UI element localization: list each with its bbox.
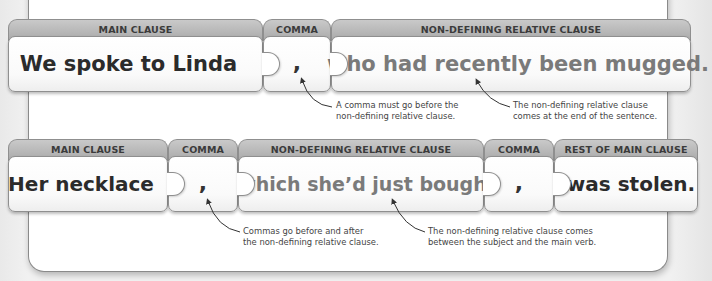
arrow-icon — [208, 201, 240, 232]
arrow-icon — [302, 80, 332, 107]
annotation-arrows — [0, 0, 712, 281]
arrow-icon — [477, 81, 510, 107]
arrow-icon — [393, 201, 425, 232]
